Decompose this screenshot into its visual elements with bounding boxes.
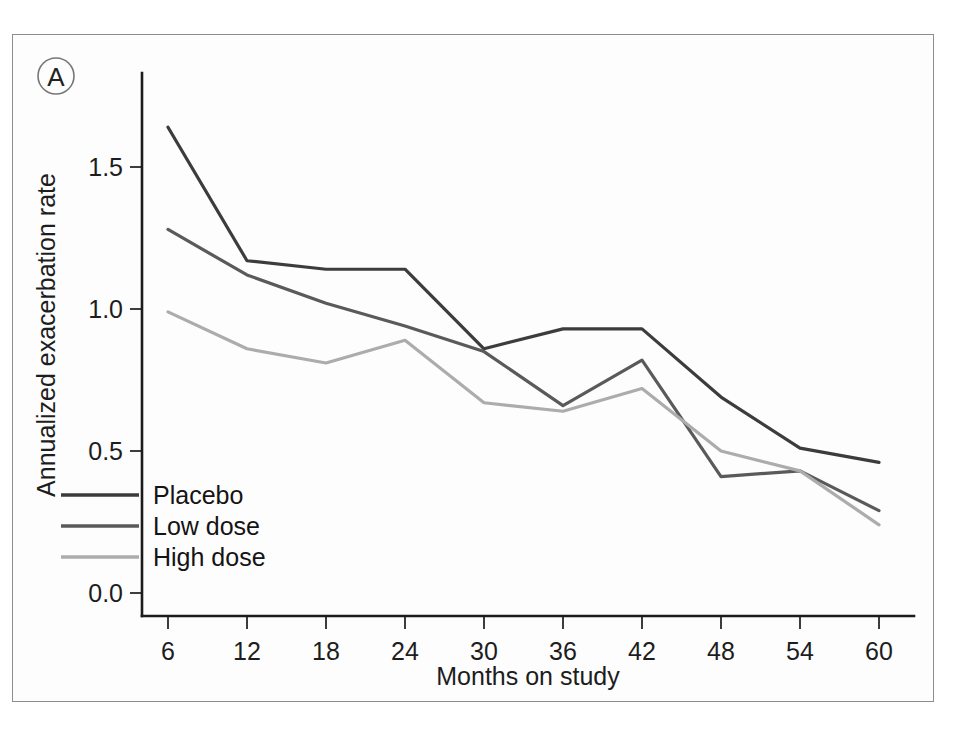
legend-label-placebo: Placebo — [153, 481, 243, 509]
x-tick-label: 18 — [312, 637, 340, 665]
legend-label-low-dose: Low dose — [153, 512, 260, 540]
x-tick-label: 6 — [161, 637, 175, 665]
x-tick-label: 30 — [470, 637, 498, 665]
chart-legend: PlaceboLow doseHigh dose — [61, 481, 266, 571]
y-tick-label: 1.5 — [88, 153, 123, 181]
x-tick-label: 48 — [707, 637, 735, 665]
y-tick-label: 1.0 — [88, 295, 123, 323]
series-line-high-dose — [168, 312, 879, 525]
panel-label-badge: A — [38, 58, 74, 94]
x-tick-label: 36 — [549, 637, 577, 665]
x-tick-label: 24 — [391, 637, 419, 665]
y-tick-label: 0.5 — [88, 437, 123, 465]
x-axis-title: Months on study — [436, 662, 620, 690]
x-tick-label: 60 — [865, 637, 893, 665]
y-tick-group: 0.00.51.01.5 — [88, 153, 142, 607]
series-line-low-dose — [168, 229, 879, 510]
line-chart: A 0.00.51.01.5 6121824303642485460 Place… — [13, 35, 935, 703]
panel-label-letter: A — [47, 62, 65, 92]
x-tick-label: 12 — [233, 637, 261, 665]
series-line-placebo — [168, 127, 879, 462]
x-tick-label: 54 — [786, 637, 814, 665]
y-tick-label: 0.0 — [88, 579, 123, 607]
x-tick-label: 42 — [628, 637, 656, 665]
y-axis-title: Annualized exacerbation rate — [32, 173, 60, 497]
figure-root: A 0.00.51.01.5 6121824303642485460 Place… — [0, 0, 956, 744]
series-group — [168, 127, 879, 525]
figure-frame: A 0.00.51.01.5 6121824303642485460 Place… — [12, 34, 934, 702]
legend-label-high-dose: High dose — [153, 543, 266, 571]
x-tick-group: 6121824303642485460 — [161, 616, 893, 665]
